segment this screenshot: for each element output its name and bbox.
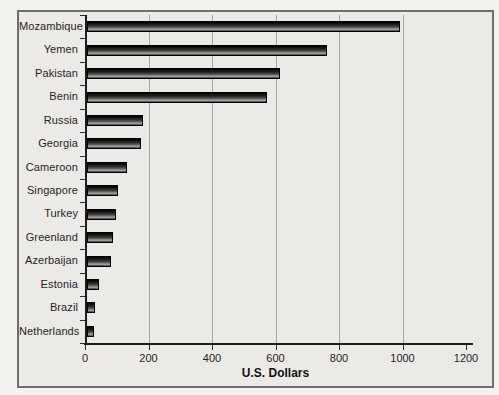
scanned-figure-page: 020040060080010001200MozambiqueYemenPaki…: [0, 0, 499, 395]
y-tick-10: [80, 249, 85, 250]
x-tick-800: [339, 345, 340, 350]
x-axis-title: U.S. Dollars: [85, 366, 466, 380]
y-tick-7: [80, 179, 85, 180]
bar-mozambique: [87, 21, 400, 32]
x-tick-1000: [403, 345, 404, 350]
y-tick-5: [80, 132, 85, 133]
y-axis-line: [85, 15, 87, 345]
x-tick-label-0: 0: [82, 352, 88, 364]
bar-chart: 020040060080010001200MozambiqueYemenPaki…: [17, 10, 494, 388]
y-tick-4: [80, 109, 85, 110]
category-label-azerbaijan: Azerbaijan: [19, 249, 78, 272]
y-tick-8: [80, 202, 85, 203]
category-label-brazil: Brazil: [19, 296, 78, 319]
category-label-cameroon: Cameroon: [19, 156, 78, 179]
gridline-600: [276, 15, 277, 343]
y-tick-3: [80, 85, 85, 86]
y-tick-2: [80, 62, 85, 63]
x-tick-label-400: 400: [203, 352, 221, 364]
category-label-estonia: Estonia: [19, 273, 78, 296]
x-tick-label-200: 200: [139, 352, 157, 364]
bar-russia: [87, 115, 143, 126]
gridline-400: [212, 15, 213, 343]
x-tick-label-1000: 1000: [390, 352, 414, 364]
x-tick-600: [276, 345, 277, 350]
category-label-russia: Russia: [19, 109, 78, 132]
x-tick-label-600: 600: [266, 352, 284, 364]
y-tick-11: [80, 273, 85, 274]
y-tick-12: [80, 296, 85, 297]
gridline-800: [339, 15, 340, 343]
bar-benin: [87, 92, 267, 103]
category-label-netherlands: Netherlands: [19, 320, 78, 343]
x-tick-label-1200: 1200: [454, 352, 478, 364]
y-tick-13: [80, 320, 85, 321]
bar-singapore: [87, 185, 118, 196]
bar-azerbaijan: [87, 256, 111, 267]
y-tick-14: [80, 343, 85, 344]
category-label-singapore: Singapore: [19, 179, 78, 202]
x-tick-400: [212, 345, 213, 350]
gridline-1000: [403, 15, 404, 343]
x-tick-0: [85, 345, 86, 350]
category-label-yemen: Yemen: [19, 38, 78, 61]
x-tick-label-800: 800: [330, 352, 348, 364]
bar-cameroon: [87, 162, 127, 173]
y-tick-0: [80, 15, 85, 16]
y-tick-9: [80, 226, 85, 227]
bar-brazil: [87, 302, 95, 313]
category-label-mozambique: Mozambique: [19, 15, 78, 38]
bar-netherlands: [87, 326, 94, 337]
bar-georgia: [87, 138, 141, 149]
bar-greenland: [87, 232, 113, 243]
x-axis-line: [84, 343, 473, 345]
x-tick-1200: [466, 345, 467, 350]
bar-pakistan: [87, 68, 280, 79]
y-tick-6: [80, 156, 85, 157]
category-label-pakistan: Pakistan: [19, 62, 78, 85]
y-tick-1: [80, 38, 85, 39]
gridline-200: [149, 15, 150, 343]
category-label-turkey: Turkey: [19, 202, 78, 225]
category-label-greenland: Greenland: [19, 226, 78, 249]
bar-yemen: [87, 45, 327, 56]
x-tick-200: [149, 345, 150, 350]
category-label-benin: Benin: [19, 85, 78, 108]
bar-estonia: [87, 279, 99, 290]
bar-turkey: [87, 209, 116, 220]
category-label-georgia: Georgia: [19, 132, 78, 155]
